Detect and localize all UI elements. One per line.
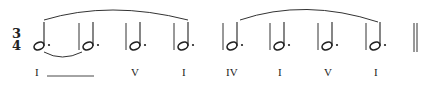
tie-m1-m2 — [44, 52, 82, 57]
note-m6 — [273, 22, 290, 51]
note-m8 — [369, 22, 386, 51]
roman-numeral-m6: I — [278, 66, 282, 78]
final-double-barline — [414, 23, 417, 52]
roman-numeral-m3: V — [131, 66, 139, 78]
phrase-slur-1 — [44, 10, 188, 20]
note-m7 — [321, 22, 338, 51]
roman-numeral-m8: I — [374, 66, 378, 78]
time-signature-bottom: 4 — [12, 38, 21, 53]
note-m3 — [129, 22, 146, 51]
note-m4 — [177, 22, 194, 51]
roman-numeral-m7: V — [324, 66, 332, 78]
rhythm-notation: 3 4 — [0, 0, 431, 85]
note-m2 — [82, 22, 99, 51]
note-m5 — [226, 22, 243, 51]
roman-numeral-m5: IV — [226, 66, 238, 78]
note-m1 — [33, 22, 50, 51]
roman-numeral-m1: I — [35, 66, 39, 78]
roman-numeral-m4: I — [182, 66, 186, 78]
phrase-slur-2 — [240, 9, 378, 22]
